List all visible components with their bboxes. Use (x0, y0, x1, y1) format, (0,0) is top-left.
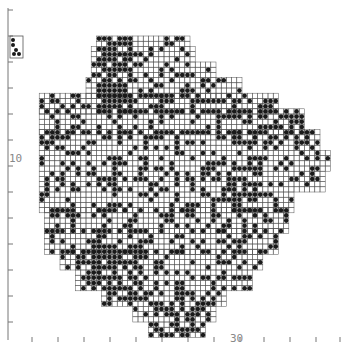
record-dot (222, 250, 227, 255)
record-dot (253, 224, 258, 229)
record-dot (222, 198, 227, 203)
record-dot (107, 88, 112, 93)
record-dot (190, 239, 195, 244)
record-dot (258, 156, 263, 161)
record-dot (144, 57, 149, 62)
record-dot (170, 312, 175, 317)
record-dot (60, 135, 65, 140)
record-dot (258, 182, 263, 187)
record-dot (289, 198, 294, 203)
record-dot (76, 187, 81, 192)
record-dot (263, 99, 268, 104)
record-dot (237, 239, 242, 244)
record-dot (50, 234, 55, 239)
record-dot (180, 333, 185, 338)
record-dot (149, 88, 154, 93)
record-dot (170, 42, 175, 47)
record-dot (107, 156, 112, 161)
record-dot (159, 99, 164, 104)
record-dot (159, 333, 164, 338)
record-dot (118, 130, 123, 135)
record-dot (237, 198, 242, 203)
record-dot (237, 114, 242, 119)
record-dot (289, 130, 294, 135)
record-dot (71, 208, 76, 213)
record-dot (170, 68, 175, 73)
record-dot (102, 265, 107, 270)
record-dot (66, 250, 71, 255)
record-dot (66, 198, 71, 203)
record-dot (237, 130, 242, 135)
record-dot (175, 281, 180, 286)
record-dot (102, 78, 107, 83)
record-dot (237, 265, 242, 270)
record-dot (107, 94, 112, 99)
record-dot (86, 130, 91, 135)
record-dot (138, 192, 143, 197)
record-dot (315, 156, 320, 161)
record-dot (253, 213, 258, 218)
record-dot (40, 140, 45, 145)
record-dot (133, 114, 138, 119)
record-dot (201, 239, 206, 244)
record-dot (50, 130, 55, 135)
record-dot (216, 260, 221, 265)
record-dot (180, 281, 185, 286)
record-dot (128, 57, 133, 62)
record-dot (144, 250, 149, 255)
record-dot (102, 88, 107, 93)
record-dot (92, 172, 97, 177)
record-dot (190, 291, 195, 296)
record-dot (55, 224, 60, 229)
record-dot (216, 172, 221, 177)
record-dot (154, 166, 159, 171)
record-dot (154, 104, 159, 109)
record-dot (66, 265, 71, 270)
record-dot (227, 187, 232, 192)
record-dot (128, 99, 133, 104)
record-dot (112, 255, 117, 260)
record-dot (118, 135, 123, 140)
record-dot (211, 177, 216, 182)
record-dot (149, 52, 154, 57)
record-dot (263, 109, 268, 114)
record-dot (289, 161, 294, 166)
record-dot (107, 302, 112, 307)
record-dot (107, 218, 112, 223)
record-dot (159, 109, 164, 114)
record-dot (274, 208, 279, 213)
record-dot (144, 229, 149, 234)
record-dot (154, 135, 159, 140)
record-dot (206, 161, 211, 166)
record-dot (112, 120, 117, 125)
record-dot (201, 83, 206, 88)
record-dot (107, 229, 112, 234)
record-dot (227, 224, 232, 229)
record-dot (242, 182, 247, 187)
record-dot (86, 281, 91, 286)
record-dot (159, 265, 164, 270)
record-dot (206, 192, 211, 197)
record-dot (50, 250, 55, 255)
record-dot (253, 130, 258, 135)
record-dot (232, 239, 237, 244)
record-dot (164, 130, 169, 135)
record-dot (232, 135, 237, 140)
record-dot (55, 99, 60, 104)
record-dot (232, 182, 237, 187)
record-dot (175, 182, 180, 187)
record-dot (310, 177, 315, 182)
record-dot (154, 192, 159, 197)
record-dot (118, 125, 123, 130)
record-dot (258, 130, 263, 135)
record-dot (196, 218, 201, 223)
record-dot (274, 166, 279, 171)
record-dot (118, 78, 123, 83)
record-dot (133, 260, 138, 265)
record-dot (284, 213, 289, 218)
record-dot (112, 286, 117, 291)
record-dot (138, 109, 143, 114)
record-dot (128, 260, 133, 265)
record-dot (216, 239, 221, 244)
record-dot (196, 203, 201, 208)
